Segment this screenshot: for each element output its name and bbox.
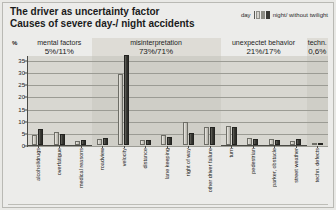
bar-day (247, 138, 252, 145)
chart-legend: day night/ without twilight (241, 11, 328, 19)
bar-group (27, 56, 49, 145)
x-tick-mark (231, 146, 232, 148)
bar-night (167, 137, 172, 146)
bar-group (178, 56, 200, 145)
x-axis-labels: alcohol/drugsoverfatiguemedical reasonsr… (27, 148, 328, 206)
x-tick-label: alcohol/drugs (35, 148, 41, 181)
category-band: mental factors5%/11%misinterpretation73%… (8, 38, 328, 56)
x-tick-label: roadview (99, 148, 105, 170)
x-tick-mark (59, 146, 60, 148)
bar-day (312, 143, 317, 145)
category-header: unexpectet behavior21%/17% (221, 38, 307, 56)
bar-group (285, 56, 307, 145)
category-name: unexpectet behavior (221, 38, 307, 47)
bar-night (232, 127, 237, 145)
bar-day (97, 139, 102, 145)
bar-day (226, 126, 231, 145)
bar-day (269, 139, 274, 145)
bar-night (146, 140, 151, 145)
bar-night (318, 143, 323, 145)
bar-group (307, 56, 329, 145)
category-name: misinterpretation (92, 38, 221, 47)
x-tick-label: medical reasons (78, 148, 84, 188)
x-tick-mark (317, 146, 318, 148)
bar-group (113, 56, 135, 145)
x-tick-label: other driver failure (207, 148, 213, 192)
x-tick-label: techn. defects (314, 148, 320, 182)
category-header: misinterpretation73%/71% (92, 38, 221, 56)
bar-day (32, 135, 37, 145)
x-tick-mark (102, 146, 103, 148)
x-tick-label: overfatigue (56, 148, 62, 175)
bar-day (140, 140, 145, 145)
legend-day-label: day (241, 12, 251, 18)
bar-group (92, 56, 114, 145)
title-line-1: The driver as uncertainty factor (10, 6, 210, 18)
bar-group (135, 56, 157, 145)
bar-group (264, 56, 286, 145)
bar-day (75, 141, 80, 145)
category-header: mental factors5%/11% (27, 38, 92, 56)
bar-night (210, 127, 215, 145)
x-tick-mark (274, 146, 275, 148)
bar-day (290, 141, 295, 145)
x-tick-label: velocity (121, 148, 127, 166)
bar-day (161, 135, 166, 145)
bar-group (156, 56, 178, 145)
x-tick-label: parker, obstacle (271, 148, 277, 187)
bar-group (49, 56, 71, 145)
bar-day (118, 74, 123, 145)
bar-group (242, 56, 264, 145)
bar-night (253, 139, 258, 145)
x-tick-mark (38, 146, 39, 148)
legend-night-swatch (266, 11, 270, 19)
category-percent: 21%/17% (221, 47, 307, 56)
legend-day-swatch (256, 11, 260, 19)
x-tick-mark (145, 146, 146, 148)
x-tick-label: pedestrian (250, 148, 256, 174)
legend-mid-swatch (261, 11, 265, 19)
x-tick-mark (167, 146, 168, 148)
chart-title: The driver as uncertainty factor Causes … (10, 6, 210, 30)
x-tick-mark (210, 146, 211, 148)
bar-day (54, 132, 59, 145)
bar-night (81, 140, 86, 145)
category-percent: 0,6% (307, 47, 329, 56)
x-tick-mark (188, 146, 189, 148)
chart-page: The driver as uncertainty factor Causes … (0, 0, 336, 210)
bar-group (70, 56, 92, 145)
category-name: techn. (307, 38, 329, 47)
gridline (27, 146, 328, 147)
category-percent: 73%/71% (92, 47, 221, 56)
x-tick-label: lane keeping (164, 148, 170, 179)
x-tick-label: turn (228, 148, 234, 157)
x-tick-label: distance (142, 148, 148, 169)
bar-night (38, 129, 43, 145)
legend-swatches (254, 11, 270, 19)
category-percent: 5%/11% (27, 47, 92, 56)
x-tick-mark (296, 146, 297, 148)
x-tick-label: street weather (293, 148, 299, 183)
bar-day (204, 127, 209, 145)
category-header: techn.0,6% (307, 38, 329, 56)
title-line-2: Causes of severe day-/ night accidents (10, 18, 210, 30)
bar-night (103, 138, 108, 145)
legend-night-label: night/ without twilight (273, 12, 328, 18)
plot-area: 35302520151050 (27, 56, 328, 146)
y-axis-line (27, 56, 28, 147)
legend-rule-icon (254, 11, 255, 19)
bottom-divider (8, 204, 328, 205)
bar-group (221, 56, 243, 145)
x-tick-mark (124, 146, 125, 148)
bar-night (189, 133, 194, 145)
x-tick-label: right of way (185, 148, 191, 176)
y-axis-unit: % (12, 40, 17, 46)
x-tick-mark (81, 146, 82, 148)
bar-night (296, 139, 301, 145)
x-tick-mark (253, 146, 254, 148)
bar-group (199, 56, 221, 145)
bar-night (275, 140, 280, 145)
bar-day (183, 122, 188, 145)
bar-night (124, 55, 129, 145)
category-name: mental factors (27, 38, 92, 47)
